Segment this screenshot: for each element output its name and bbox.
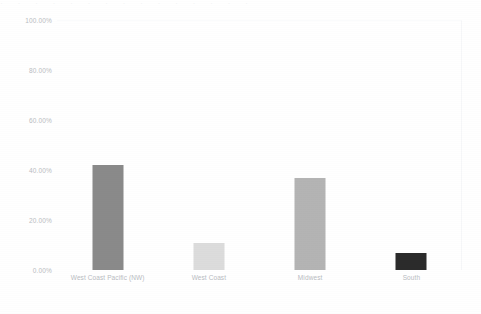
bar-slot	[57, 20, 158, 270]
bar-slot	[260, 20, 361, 270]
y-axis-tick-label: 40.00%	[0, 167, 52, 174]
x-axis-tick-label: Midwest	[298, 274, 323, 281]
x-axis-tick-label: West Coast Pacific (NW)	[71, 274, 145, 281]
bar[interactable]	[295, 178, 326, 271]
y-axis-tick-label: 60.00%	[0, 117, 52, 124]
bar[interactable]	[193, 243, 224, 271]
bar[interactable]	[396, 253, 427, 271]
bar-chart: · · · · · · · · · · · · · · · 100.00%80.…	[0, 0, 481, 314]
y-axis-tick-label: 0.00%	[0, 267, 52, 274]
bar-slot	[158, 20, 259, 270]
x-axis-tick-label: South	[403, 274, 421, 281]
y-axis-tick-label: 80.00%	[0, 67, 52, 74]
x-axis-tick-label: West Coast	[192, 274, 226, 281]
y-axis-tick-label: 20.00%	[0, 217, 52, 224]
x-axis: West Coast Pacific (NW)West CoastMidwest…	[57, 272, 462, 292]
clipped-text-artifact: · · · · · · · · · · · · · · ·	[0, 0, 481, 6]
y-axis-tick-label: 100.00%	[0, 17, 52, 24]
bar[interactable]	[92, 165, 123, 270]
bar-slot	[361, 20, 462, 270]
y-axis: 100.00%80.00%60.00%40.00%20.00%0.00%	[0, 0, 57, 314]
bars-layer	[57, 20, 462, 270]
